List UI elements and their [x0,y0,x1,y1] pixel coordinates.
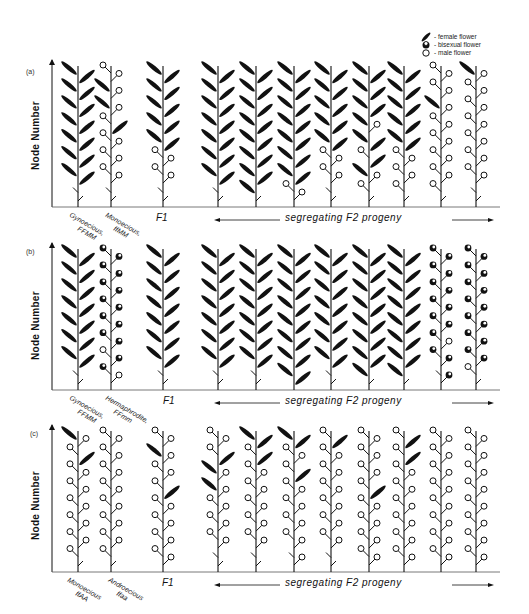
male-flower-icon [446,503,452,509]
female-flower-icon [218,268,236,284]
male-flower-icon [67,461,73,467]
male-flower-icon [207,495,213,501]
male-flower-icon [100,427,106,433]
female-flower-icon [200,328,218,344]
flower-pedicel [398,483,404,489]
male-flower-icon [393,181,399,187]
flower-pedicel [369,126,375,132]
female-flower-icon [78,251,96,267]
leaf-tick [218,561,223,566]
flower-pedicel [441,309,447,315]
male-flower-icon [374,554,380,560]
flower-pedicel [105,500,111,506]
female-flower-icon [238,425,256,441]
male-flower-icon [409,503,415,509]
female-flower-icon [276,145,294,161]
male-flower-icon [430,427,436,433]
female-flower-icon [294,153,312,169]
flower-pedicel [404,542,410,548]
female-flower-icon [238,277,256,293]
flower-pedicel [363,551,369,557]
female-flower-icon [331,119,349,135]
flower-pedicel [441,542,447,548]
female-flower-icon [93,77,111,93]
male-flower-icon [116,138,122,144]
female-flower-icon [313,294,331,310]
female-flower-icon [78,285,96,301]
flower-pedicel [476,126,482,132]
male-flower-icon [481,435,487,441]
legend-label: - male flower [434,49,471,57]
male-flower-icon [261,469,267,475]
female-flower-icon [200,77,218,93]
flower-pedicel [476,360,482,366]
female-flower-icon [331,268,349,284]
flower-pedicel [476,143,482,149]
bisexual-flower-highlight [467,313,470,316]
leaf-tick [163,379,168,384]
flower-pedicel [398,449,404,455]
female-flower-icon [369,268,387,284]
male-flower-icon [336,469,342,475]
male-flower-icon [358,478,364,484]
bisexual-flower-highlight [432,347,435,350]
male-flower-icon [430,478,436,484]
male-flower-icon [465,113,471,119]
y-axis-arrow-icon [49,424,55,430]
bisexual-flower-highlight [432,279,435,282]
male-flower-icon [465,495,471,501]
male-flower-icon [481,554,487,560]
male-flower-icon [393,461,399,467]
flower-pedicel [212,534,218,540]
flower-pedicel [476,92,482,98]
female-flower-icon [200,277,218,293]
male-flower-icon [446,121,452,127]
male-flower-icon [358,461,364,467]
male-flower-icon [152,147,158,153]
male-flower-icon [430,529,436,535]
flower-pedicel [476,457,482,463]
female-flower-icon [60,260,78,276]
female-flower-icon [313,77,331,93]
flower-pedicel [78,542,84,548]
flower-pedicel [111,258,117,264]
leaf-tick [218,196,223,201]
flower-pedicel [476,160,482,166]
male-flower-icon [393,427,399,433]
flower-pedicel [435,118,441,124]
male-flower-icon [374,503,380,509]
flower-pedicel [398,534,404,540]
male-flower-icon [409,172,415,178]
female-flower-icon [145,60,163,76]
female-flower-icon [331,285,349,301]
flower-pedicel [441,75,447,81]
flower-pedicel [105,169,111,175]
female-flower-icon [369,336,387,352]
flower-pedicel [435,335,441,341]
bisexual-flower-highlight [102,330,105,333]
bisexual-flower-highlight [102,313,105,316]
female-flower-icon [331,68,349,84]
flower-pedicel [78,525,84,531]
flower-pedicel [363,517,369,523]
female-flower-icon [404,336,422,352]
female-flower-icon [386,260,404,276]
male-flower-icon [393,147,399,153]
female-flower-icon [256,450,274,466]
female-flower-icon [386,77,404,93]
female-flower-icon [60,161,78,177]
female-flower-icon [369,484,387,500]
female-flower-icon [276,294,294,310]
flower-pedicel [72,534,78,540]
flower-pedicel [441,474,447,480]
male-flower-icon [283,478,289,484]
female-flower-icon [386,361,404,377]
flower-pedicel [435,169,441,175]
female-flower-icon [78,450,96,466]
flower-pedicel [105,67,111,73]
female-flower-icon [369,102,387,118]
flower-pedicel [331,177,337,183]
male-flower-icon [465,546,471,552]
female-flower-icon [386,128,404,144]
female-flower-icon [331,136,349,152]
